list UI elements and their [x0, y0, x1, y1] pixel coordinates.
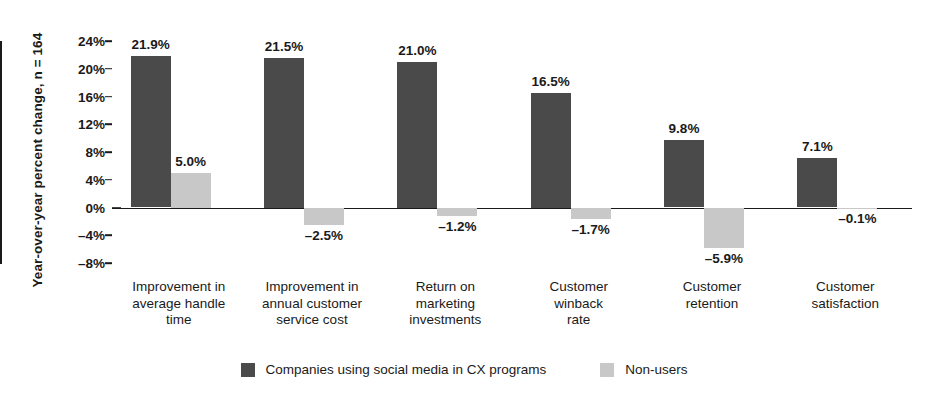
legend-label: Non-users [625, 362, 687, 377]
bar-value-label: 16.5% [508, 74, 594, 89]
category-label-line: winback [504, 296, 654, 313]
y-tick-mark [105, 96, 112, 98]
legend-item[interactable]: Non-users [600, 362, 687, 377]
category-label-line: Improvement in [237, 279, 387, 296]
bar-group: 16.5%–1.7%Customerwinbackrate [512, 41, 645, 263]
y-tick-mark [105, 179, 112, 181]
bar-value-label: 7.1% [774, 139, 860, 154]
category-label-line: Return on [370, 279, 520, 296]
bar-group: 21.9%5.0%Improvement inaverage handletim… [112, 41, 245, 263]
x-axis-category-label: Customerretention [637, 279, 787, 312]
legend-label: Companies using social media in CX progr… [266, 362, 547, 377]
y-axis-line [0, 41, 2, 264]
category-label-line: Improvement in [104, 279, 254, 296]
bar-social-media-users [264, 58, 304, 207]
y-tick-label: 0% [85, 200, 112, 215]
y-tick-mark [105, 262, 112, 264]
y-axis-title: Year-over-year percent change, n = 164 [30, 38, 45, 288]
bar-social-media-users [664, 140, 704, 208]
bar-social-media-users [531, 93, 571, 207]
category-label-line: Customer [637, 279, 787, 296]
bar-non-users [437, 208, 477, 216]
y-tick-mark [105, 234, 112, 236]
bar-value-label: –1.7% [548, 222, 634, 237]
category-label-line: time [104, 312, 254, 329]
legend-swatch-icon [600, 363, 614, 377]
category-label-line: service cost [237, 312, 387, 329]
bar-group: 7.1%–0.1%Customersatisfaction [779, 41, 912, 263]
bar-value-label: –5.9% [681, 251, 767, 266]
legend-swatch-icon [241, 363, 255, 377]
bar-social-media-users [131, 56, 171, 208]
bar-social-media-users [397, 62, 437, 208]
bar-pair: 7.1%–0.1% [779, 41, 912, 263]
bar-value-label: 9.8% [641, 121, 727, 136]
category-label-line: retention [637, 296, 787, 313]
bar-value-label: –1.2% [414, 219, 500, 234]
category-label-line: satisfaction [770, 296, 920, 313]
category-label-line: rate [504, 312, 654, 329]
bar-pair: 21.9%5.0% [112, 41, 245, 263]
y-tick-mark [105, 151, 112, 153]
x-axis-category-label: Customersatisfaction [770, 279, 920, 312]
bar-group: 21.5%–2.5%Improvement inannual customers… [245, 41, 378, 263]
legend-item[interactable]: Companies using social media in CX progr… [241, 362, 547, 377]
bar-pair: 9.8%–5.9% [645, 41, 778, 263]
plot-area: 24%20%16%12%8%4%0%–4%–8% 21.9%5.0%Improv… [112, 41, 912, 263]
x-axis-category-label: Improvement inannual customerservice cos… [237, 279, 387, 329]
y-tick-mark [105, 68, 112, 70]
bar-non-users [171, 173, 211, 208]
bar-non-users [304, 208, 344, 225]
category-label-line: annual customer [237, 296, 387, 313]
bar-value-label: 21.5% [241, 39, 327, 54]
bar-pair: 16.5%–1.7% [512, 41, 645, 263]
category-label-line: Customer [770, 279, 920, 296]
x-axis-category-label: Return onmarketinginvestments [370, 279, 520, 329]
bar-value-label: 5.0% [148, 154, 234, 169]
bar-value-label: –2.5% [281, 228, 367, 243]
x-axis-category-label: Customerwinbackrate [504, 279, 654, 329]
bar-value-label: –0.1% [814, 211, 900, 226]
category-label-line: marketing [370, 296, 520, 313]
bar-non-users [571, 208, 611, 220]
bar-pair: 21.0%–1.2% [379, 41, 512, 263]
chart-legend: Companies using social media in CX progr… [0, 362, 928, 377]
bar-chart: Year-over-year percent change, n = 164 2… [0, 0, 928, 418]
category-label-line: investments [370, 312, 520, 329]
bar-group: 9.8%–5.9%Customerretention [645, 41, 778, 263]
bar-non-users [837, 208, 877, 209]
bar-pair: 21.5%–2.5% [245, 41, 378, 263]
bar-value-label: 21.9% [108, 37, 194, 52]
category-label-line: average handle [104, 296, 254, 313]
y-tick-mark [105, 123, 112, 125]
bar-value-label: 21.0% [374, 43, 460, 58]
x-axis-category-label: Improvement inaverage handletime [104, 279, 254, 329]
bar-non-users [704, 208, 744, 249]
bar-group: 21.0%–1.2%Return onmarketinginvestments [379, 41, 512, 263]
bar-social-media-users [797, 158, 837, 207]
category-label-line: Customer [504, 279, 654, 296]
